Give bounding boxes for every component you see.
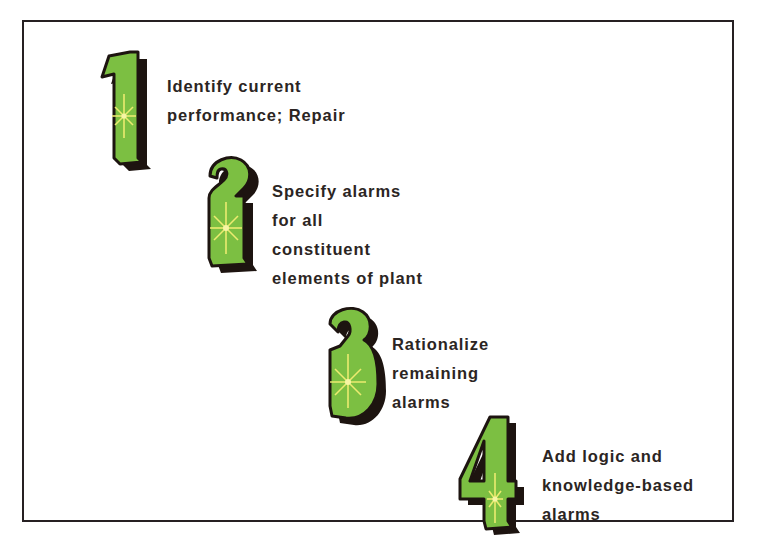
numeral-one-icon bbox=[90, 50, 160, 168]
caption-line: alarms bbox=[542, 500, 694, 529]
caption-line: for all bbox=[272, 206, 423, 235]
caption-line: alarms bbox=[392, 388, 489, 417]
step-1-caption: Identify current performance; Repair bbox=[167, 72, 345, 130]
caption-line: elements of plant bbox=[272, 264, 423, 293]
caption-line: Rationalize bbox=[392, 330, 489, 359]
step-4-caption: Add logic and knowledge-based alarms bbox=[542, 442, 694, 529]
numeral-two-icon bbox=[196, 154, 266, 272]
diagram-frame: Identify current performance; Repair bbox=[22, 20, 734, 522]
caption-line: Specify alarms bbox=[272, 177, 423, 206]
numeral-three-icon bbox=[318, 306, 388, 424]
caption-line: Add logic and bbox=[542, 442, 694, 471]
numeral-four-icon bbox=[456, 415, 526, 533]
caption-line: remaining bbox=[392, 359, 489, 388]
diagram-canvas: Identify current performance; Repair bbox=[0, 0, 765, 552]
caption-line: Identify current bbox=[167, 72, 345, 101]
step-2-caption: Specify alarms for all constituent eleme… bbox=[272, 177, 423, 293]
caption-line: constituent bbox=[272, 235, 423, 264]
caption-line: performance; Repair bbox=[167, 101, 345, 130]
step-3-caption: Rationalize remaining alarms bbox=[392, 330, 489, 417]
caption-line: knowledge-based bbox=[542, 471, 694, 500]
